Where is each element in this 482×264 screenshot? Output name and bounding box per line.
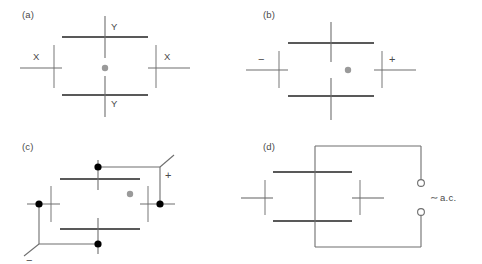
panel-label-d: (d) [263, 141, 275, 152]
panel-b-diagram [241, 0, 482, 132]
panel-b-label-positive: + [389, 54, 395, 65]
panel-a-label-right: X [164, 52, 170, 62]
ac-terminal-bottom-icon [418, 209, 425, 216]
figure-root: (a) Y Y X X (b) − + [0, 0, 482, 264]
beam-spot-icon [127, 191, 133, 197]
ac-source-label: a.c. [440, 192, 457, 203]
junction-dot-top [94, 163, 101, 170]
junction-dot-bottom [94, 240, 101, 247]
panel-d: (d) ∼ a.c. [241, 132, 482, 264]
panel-label-b: (b) [263, 9, 275, 20]
panel-a: (a) Y Y X X [0, 0, 241, 132]
panel-a-label-bottom: Y [111, 99, 117, 109]
panel-b: (b) − + [241, 0, 482, 132]
junction-dot-left [35, 200, 42, 207]
panel-label-a: (a) [22, 9, 34, 20]
wire-positive-stub [160, 155, 174, 167]
panel-c-label-positive: + [165, 170, 171, 181]
panel-c-diagram [0, 132, 241, 264]
panel-b-label-negative: − [258, 54, 264, 65]
panel-c: (c) + − [0, 132, 241, 264]
ac-terminal-top-icon [418, 180, 425, 187]
junction-dot-right [156, 200, 163, 207]
panel-c-label-negative: − [26, 255, 32, 264]
panel-a-label-left: X [33, 52, 39, 62]
panel-a-label-top: Y [111, 22, 117, 32]
beam-spot-icon [345, 67, 351, 73]
panel-a-diagram [0, 0, 241, 132]
ac-source-symbol: ∼ [430, 192, 438, 203]
beam-spot-icon [102, 65, 108, 71]
panel-label-c: (c) [22, 141, 34, 152]
